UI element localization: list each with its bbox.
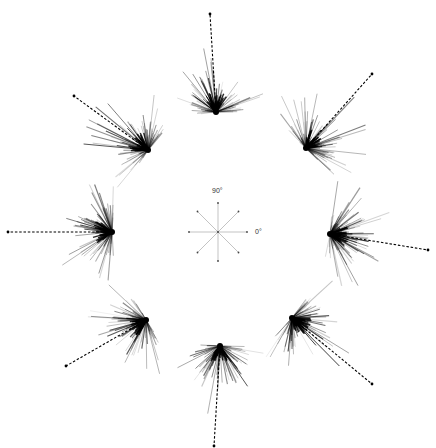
leader-end-dot — [73, 95, 76, 98]
key-spoke-135 — [198, 212, 219, 233]
fan-group-west — [7, 185, 115, 281]
fan-apex — [213, 109, 219, 115]
fan-group-south-west — [65, 285, 160, 374]
center-direction-key — [188, 202, 248, 262]
fan-group-north — [177, 13, 263, 115]
fan-apex — [303, 145, 309, 151]
leader-end-dot — [213, 445, 216, 448]
fan-group-east — [325, 181, 429, 286]
fan-apex — [145, 147, 151, 153]
key-spoke-45 — [218, 212, 239, 233]
fan-apex — [143, 317, 149, 323]
key-spoke-225 — [198, 232, 219, 253]
fan-group-north-east — [281, 73, 374, 175]
fan-apex — [217, 343, 223, 349]
vector-fan-diagram — [0, 0, 436, 448]
fan-apex — [327, 231, 333, 237]
leader-end-dot — [371, 383, 374, 386]
leader-end-dot — [371, 73, 374, 76]
label-0-degrees: 0° — [255, 228, 262, 235]
leader-end-dot — [65, 365, 68, 368]
fan-group-north-west — [73, 95, 164, 188]
key-spoke-315 — [218, 232, 239, 253]
fan-group-south-east — [266, 281, 373, 386]
leader-end-dot — [7, 231, 10, 234]
fan-group-south — [178, 343, 264, 447]
key-center-dot — [217, 231, 219, 233]
leader-end-dot — [427, 249, 430, 252]
leader-end-dot — [209, 13, 212, 16]
fan-apex — [289, 315, 295, 321]
fan-apex — [109, 229, 115, 235]
label-90-degrees: 90° — [212, 187, 223, 194]
